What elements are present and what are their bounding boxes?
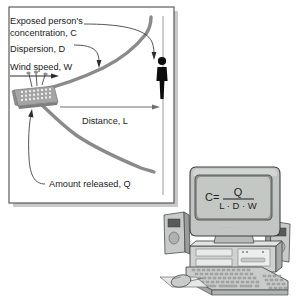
dispersion-figure: Exposed person's concentration, C Disper… (0, 0, 298, 300)
equation-denominator: L · D · W (219, 200, 257, 211)
label-exposed-concentration-line1: Exposed person's (10, 16, 83, 26)
speaker-left-icon (164, 212, 190, 254)
label-dispersion: Dispersion, D (10, 44, 66, 54)
label-wind-speed: Wind speed, W (10, 62, 73, 72)
label-exposed-concentration-line2: concentration, C (10, 28, 77, 38)
equation-result: C (205, 191, 213, 203)
equation-numerator: Q (234, 186, 243, 198)
label-distance: Distance, L (82, 116, 128, 126)
monitor-brand-text: · · · · · · (221, 227, 235, 230)
label-amount-released: Amount released, Q (49, 179, 131, 189)
factory-building-icon (12, 86, 58, 109)
